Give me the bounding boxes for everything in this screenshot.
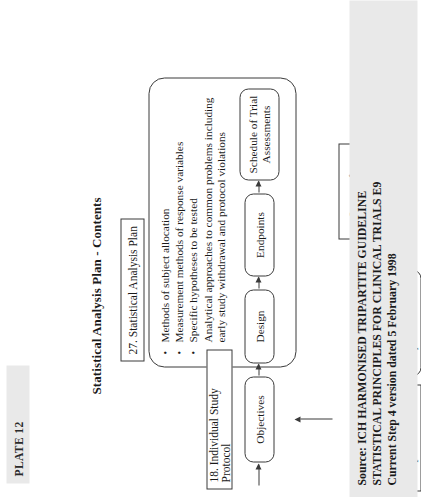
required-contents-list: Methods of subject allocation Measuremen… <box>158 88 227 358</box>
plate-label: PLATE 12 <box>6 365 29 483</box>
flow-box-objectives: Objectives <box>244 376 274 462</box>
chapter-reference-box-27: 27. Statistical Analysis Plan <box>120 218 144 361</box>
arrow-objectives-to-design <box>258 364 259 375</box>
chapter-reference-box-18: 18. Individual Study Protocol <box>206 349 232 489</box>
flow-box-label: Design <box>253 310 266 342</box>
list-item: Measurement methods of response variable… <box>172 88 185 342</box>
protocol-box-label: 18. Individual Study Protocol <box>207 350 231 482</box>
arrow-protocol-to-contents <box>300 418 332 419</box>
list-item: Specific hypotheses to be tested <box>186 88 199 342</box>
flow-box-label: Objectives <box>253 395 266 443</box>
source-line-2: STATISTICAL PRINCIPLES FOR CLINICAL TRIA… <box>369 0 384 485</box>
chapter-reference-label: 27. Statistical Analysis Plan <box>126 226 138 354</box>
page-title: Statistical Analysis Plan - Contents <box>88 197 104 394</box>
source-citation: Source: ICH HARMONISED TRIPARTITE GUIDEL… <box>349 0 417 497</box>
plate-label-text: PLATE 12 <box>12 421 24 476</box>
flow-box-label: Endpoints <box>253 212 266 258</box>
arrow-design-to-endpoints <box>258 277 259 288</box>
flow-box-endpoints: Endpoints <box>244 193 274 276</box>
source-line-1: Source: ICH HARMONISED TRIPARTITE GUIDEL… <box>354 0 369 485</box>
flow-box-label: Schedule of Trial Assessments <box>246 89 272 179</box>
list-item: Methods of subject allocation <box>158 88 171 342</box>
arrow-endpoints-to-schedule <box>258 181 259 192</box>
source-line-3: Current Step 4 version dated 5 February … <box>384 0 399 485</box>
arrow-protocol-to-objectives <box>258 464 259 485</box>
flow-box-design: Design <box>244 289 274 363</box>
list-item: Analytical approaches to common problems… <box>201 88 227 342</box>
flow-box-schedule-of-trial-assessments: Schedule of Trial Assessments <box>239 88 279 180</box>
